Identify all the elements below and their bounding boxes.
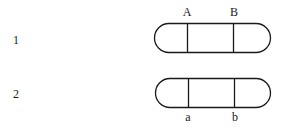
chromosome-shapes [0,0,290,127]
chromosome-2-outline [156,79,271,108]
chromosome-1 [155,24,271,53]
chromosome-2 [156,79,271,108]
chromosome-1-outline [155,24,271,53]
